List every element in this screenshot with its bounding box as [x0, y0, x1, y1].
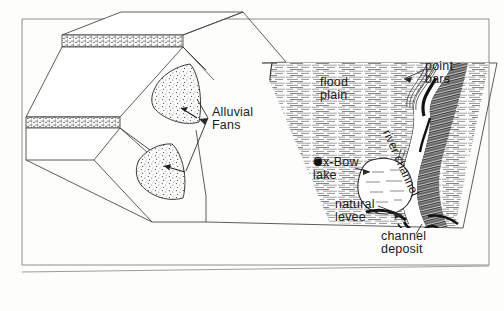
fault-trace-lower [26, 117, 120, 128]
label-ox-bow-lake: Ox-Bow lake [313, 156, 359, 182]
fault-trace-upper [62, 35, 183, 47]
figure-canvas: Alluvial Fans flood plain point bars Ox-… [0, 0, 504, 311]
label-flood-plain: flood plain [320, 76, 348, 102]
piedmont-face [26, 128, 120, 160]
label-point-bars: point bars [425, 60, 453, 86]
block-diagram-svg [0, 0, 504, 311]
label-natural-levee: natural levee [335, 198, 375, 224]
label-channel-deposit: channel deposit [381, 230, 426, 256]
mountain-block-upper [62, 12, 243, 35]
label-alluvial-fans: Alluvial Fans [212, 106, 253, 132]
alluvial-fan-lower [136, 144, 185, 200]
